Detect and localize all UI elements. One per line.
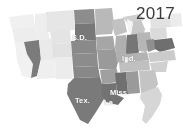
us-choropleth-map-figure: S.D. Ind. Tex. Miss. La. 2017	[0, 0, 183, 139]
state-label-louisiana: La.	[104, 98, 115, 107]
state-minnesota	[95, 8, 114, 35]
year-label: 2017	[136, 4, 175, 24]
state-north-dakota	[74, 9, 95, 24]
state-wyoming	[50, 30, 71, 44]
state-new-mexico	[55, 57, 73, 79]
state-kansas	[72, 53, 98, 67]
state-oklahoma	[73, 66, 100, 78]
state-label-mississippi: Miss.	[110, 88, 129, 97]
state-iowa	[96, 36, 115, 50]
state-oregon	[12, 26, 37, 43]
state-nebraska	[71, 40, 97, 54]
state-montana	[46, 10, 75, 32]
state-label-indiana: Ind.	[122, 54, 136, 63]
state-label-texas: Tex.	[75, 96, 90, 105]
state-colorado	[52, 43, 72, 58]
state-pennsylvania	[150, 27, 167, 40]
state-label-south-dakota: S.D.	[72, 33, 87, 42]
state-missouri	[97, 49, 118, 70]
